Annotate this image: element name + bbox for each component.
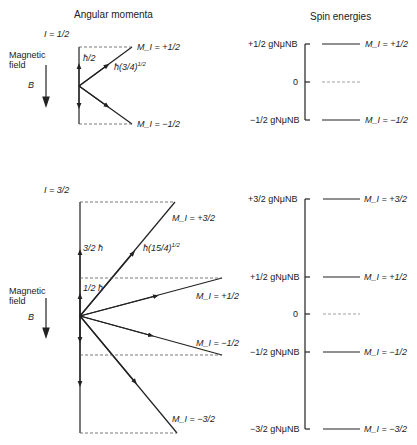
heading-angular-momenta: Angular momenta — [74, 10, 153, 20]
energy-state-bottom-0: M_I = +3/2 — [364, 195, 407, 204]
field-label-top-1: Magnetic — [9, 51, 46, 60]
energy-label-bottom-0: +3/2 gNμNB — [248, 195, 297, 204]
state-label-bottom-3: M_I = −3/2 — [172, 415, 215, 424]
field-label-top-2: field — [9, 61, 26, 70]
energy-label-bottom-1: +1/2 gNμNB — [250, 273, 299, 282]
magnitude-label-bottom: ħ(15/4)1/2 — [143, 242, 180, 253]
state-label-top-1: M_I = −1/2 — [137, 120, 180, 129]
field-symbol-top: B — [28, 81, 34, 90]
field-label-bottom-2: field — [9, 297, 26, 306]
energy-label-bottom-2: 0 — [293, 310, 298, 319]
state-label-bottom-2: M_I = −1/2 — [196, 339, 239, 348]
field-symbol-bottom: B — [28, 313, 34, 322]
state-label-bottom-0: M_I = +3/2 — [172, 214, 215, 223]
state-label-bottom-1: M_I = +1/2 — [196, 292, 239, 301]
magnitude-label-top: ħ(3/4)1/2 — [114, 61, 146, 72]
spin-label-top: I = 1/2 — [44, 30, 69, 39]
energy-label-top-0: +1/2 gNμNB — [248, 40, 297, 49]
energy-label-bottom-4: −3/2 gNμNB — [250, 425, 299, 434]
energy-label-top-2: −1/2 gNμNB — [250, 116, 299, 125]
component-label-top: ħ/2 — [83, 54, 96, 63]
field-label-bottom-1: Magnetic — [9, 287, 46, 296]
state-label-top-0: M_I = +1/2 — [137, 43, 180, 52]
component-label-bottom-0: 3/2 ħ — [83, 244, 103, 253]
energy-label-bottom-3: −1/2 gNμNB — [250, 348, 299, 357]
energy-label-top-1: 0 — [293, 78, 298, 87]
energy-state-top-1: M_I = −1/2 — [365, 116, 408, 125]
heading-spin-energies: Spin energies — [310, 12, 371, 22]
energy-state-top-0: M_I = +1/2 — [365, 40, 408, 49]
energy-state-bottom-1: M_I = +1/2 — [364, 273, 407, 282]
energy-state-bottom-2: M_I = −1/2 — [364, 348, 407, 357]
energy-state-bottom-3: M_I = −3/2 — [364, 425, 407, 434]
spin-label-bottom: I = 3/2 — [44, 186, 69, 195]
component-label-bottom-1: 1/2 ħ — [83, 284, 103, 293]
